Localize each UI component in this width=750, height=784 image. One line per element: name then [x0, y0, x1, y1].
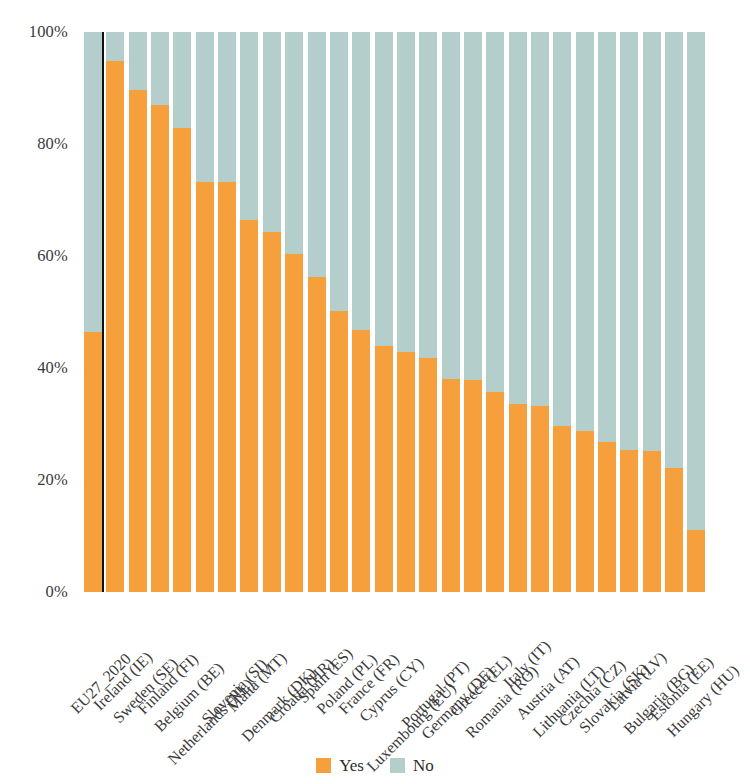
segment-yes [352, 330, 370, 592]
segment-yes [129, 90, 147, 592]
bar-poland-pl[interactable] [330, 32, 348, 592]
segment-yes [285, 254, 303, 592]
segment-no [173, 32, 191, 128]
segment-yes [218, 182, 236, 592]
segment-yes [375, 346, 393, 592]
segment-yes [397, 352, 415, 592]
segment-yes [620, 450, 638, 592]
bar-luxembourg-lu[interactable] [397, 32, 415, 592]
bar-portugal-pt[interactable] [419, 32, 437, 592]
segment-yes [442, 379, 460, 592]
segment-yes [486, 392, 504, 592]
segment-no [464, 32, 482, 380]
bar-belgium-be[interactable] [173, 32, 191, 592]
segment-no [285, 32, 303, 254]
bar-france-fr[interactable] [352, 32, 370, 592]
segment-no [196, 32, 214, 182]
segment-yes [553, 426, 571, 592]
bar-germany-de[interactable] [442, 32, 460, 592]
plot-area [84, 32, 736, 592]
segment-no [106, 32, 124, 61]
segment-no [486, 32, 504, 392]
segment-yes [419, 358, 437, 592]
segment-yes [464, 380, 482, 592]
segment-no [330, 32, 348, 311]
segment-yes [240, 220, 258, 592]
segment-yes [598, 442, 616, 592]
segment-no [375, 32, 393, 346]
chart-legend: YesNo [0, 750, 750, 780]
legend-label: No [413, 757, 434, 774]
segment-yes [509, 404, 527, 592]
segment-yes [106, 61, 124, 592]
bar-greece-el[interactable] [464, 32, 482, 592]
bar-finland-fi[interactable] [151, 32, 169, 592]
y-axis-tick-label: 40% [37, 360, 68, 377]
bar-croatia-hr[interactable] [285, 32, 303, 592]
segment-yes [196, 182, 214, 592]
bar-denmark-dk[interactable] [263, 32, 281, 592]
bar-lithuania-lt[interactable] [553, 32, 571, 592]
segment-no [643, 32, 661, 451]
segment-no [397, 32, 415, 352]
legend-swatch-yes [316, 758, 331, 773]
segment-no [553, 32, 571, 426]
segment-no [129, 32, 147, 90]
bar-italy-it[interactable] [509, 32, 527, 592]
segment-no [240, 32, 258, 220]
segment-no [151, 32, 169, 105]
bar-czechia-cz[interactable] [576, 32, 594, 592]
segment-yes [330, 311, 348, 592]
segment-no [509, 32, 527, 404]
bar-slovenia-si[interactable] [218, 32, 236, 592]
legend-item-yes[interactable]: Yes [316, 757, 364, 774]
segment-yes [665, 468, 683, 592]
bar-malta-mt[interactable] [240, 32, 258, 592]
x-axis: EU27_2020Ireland (IE)Sweden (SE)Finland … [0, 596, 750, 746]
stacked-bar-chart: 100%80%60%40%20%0% EU27_2020Ireland (IE)… [0, 0, 750, 784]
segment-yes [151, 105, 169, 592]
bar-bulgaria-bg[interactable] [643, 32, 661, 592]
segment-no [687, 32, 705, 530]
legend-label: Yes [339, 757, 364, 774]
bar-slovakia-sk[interactable] [598, 32, 616, 592]
segment-no [218, 32, 236, 182]
segment-no [308, 32, 326, 277]
bar-austria-at[interactable] [531, 32, 549, 592]
segment-yes [308, 277, 326, 592]
bar-spain-es[interactable] [308, 32, 326, 592]
segment-no [442, 32, 460, 379]
segment-no [576, 32, 594, 431]
bar-sweden-se[interactable] [129, 32, 147, 592]
bar-cyprus-cy[interactable] [375, 32, 393, 592]
segment-no [263, 32, 281, 232]
bar-eu27-2020[interactable] [84, 32, 102, 592]
segment-no [531, 32, 549, 406]
bar-hungary-hu[interactable] [687, 32, 705, 592]
segment-no [620, 32, 638, 450]
bar-estonia-ee[interactable] [665, 32, 683, 592]
bar-romania-ro[interactable] [486, 32, 504, 592]
legend-swatch-no [390, 758, 405, 773]
segment-yes [576, 431, 594, 592]
segment-no [352, 32, 370, 330]
bar-ireland-ie[interactable] [106, 32, 124, 592]
y-axis-tick-label: 80% [37, 136, 68, 153]
segment-no [598, 32, 616, 442]
y-axis-tick-label: 60% [37, 248, 68, 265]
y-axis-tick-label: 100% [29, 24, 68, 41]
segment-no [665, 32, 683, 468]
segment-yes [531, 406, 549, 592]
segment-yes [84, 332, 102, 592]
y-axis-tick-label: 20% [37, 472, 68, 489]
bar-latvia-lv[interactable] [620, 32, 638, 592]
segment-yes [643, 451, 661, 592]
bar-netherlands-nl[interactable] [196, 32, 214, 592]
legend-item-no[interactable]: No [390, 757, 434, 774]
segment-yes [263, 232, 281, 592]
segment-yes [173, 128, 191, 592]
segment-no [84, 32, 102, 332]
segment-no [419, 32, 437, 358]
eu27-reference-line [102, 32, 104, 592]
segment-yes [687, 530, 705, 592]
